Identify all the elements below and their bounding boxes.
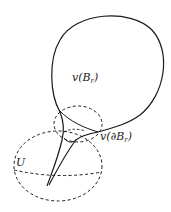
bubble-curve — [49, 16, 164, 185]
lower-dashed-ellipse — [14, 131, 102, 201]
bubble-label: v(Br) — [72, 72, 98, 85]
diagram-svg — [0, 0, 171, 212]
boundary-label: v(∂Br) — [100, 131, 132, 144]
neighborhood-label: U — [16, 157, 25, 168]
web-line-upper — [59, 110, 98, 132]
inner-dashed-arc — [64, 129, 86, 132]
equator-dashed-line — [14, 170, 102, 176]
diagram-canvas: v(Br) v(∂Br) U — [0, 0, 171, 212]
